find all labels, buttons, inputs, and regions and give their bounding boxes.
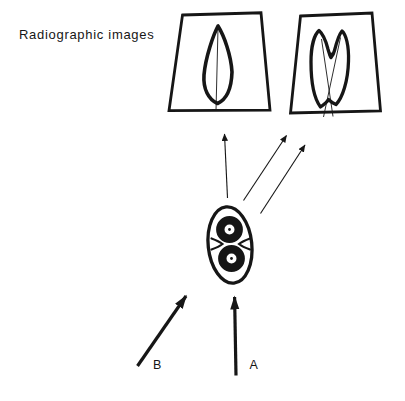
- canal-bottom-center-dot-icon: [230, 257, 233, 260]
- isthmus-right-icon: [239, 239, 250, 250]
- diagram-canvas: B A: [0, 0, 405, 401]
- projection-ray-vertical-icon: [225, 134, 228, 198]
- film-right-canal-line-2-icon: [324, 38, 341, 118]
- xray-beams: B A: [138, 296, 259, 376]
- radiograph-film-left: [169, 13, 270, 111]
- projection-ray-diagonal-1-icon: [244, 136, 287, 201]
- beam-label-a: A: [250, 358, 259, 372]
- xray-beam-arrow-a-icon: [235, 297, 236, 376]
- xray-beam-arrow-b-icon: [138, 296, 187, 366]
- projection-ray-diagonal-2-icon: [261, 145, 306, 214]
- root-cross-section: [204, 205, 255, 286]
- film-right-bifurcation-dot-icon: [329, 53, 334, 58]
- radiograph-film-right: [291, 13, 381, 117]
- film-left-single-canal-line-icon: [216, 28, 218, 111]
- canal-top-center-dot-icon: [228, 228, 231, 231]
- radiography-projection-diagram: Radiographic images: [0, 0, 405, 401]
- beam-label-b: B: [153, 358, 161, 372]
- projection-rays: [225, 134, 306, 214]
- isthmus-left-icon: [212, 239, 223, 250]
